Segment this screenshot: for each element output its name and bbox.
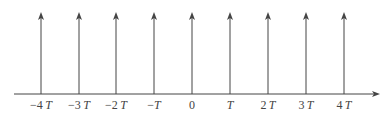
tick-label: 4 T xyxy=(336,98,351,113)
tick-label: T xyxy=(227,98,234,113)
tick-label: 3 T xyxy=(298,98,313,113)
tick-label: −3 T xyxy=(68,98,90,113)
tick-label: 2 T xyxy=(260,98,275,113)
tick-label: −2 T xyxy=(105,98,127,113)
tick-label: 0 xyxy=(189,98,195,113)
tick-label: −4 T xyxy=(30,98,52,113)
tick-label: −T xyxy=(147,98,160,113)
